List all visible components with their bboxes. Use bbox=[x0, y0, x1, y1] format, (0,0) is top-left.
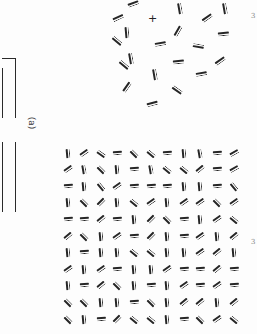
grid-element bbox=[181, 248, 187, 257]
grid-element bbox=[113, 314, 123, 324]
grid-element bbox=[113, 217, 122, 223]
grid-element bbox=[163, 150, 172, 156]
cluster-element bbox=[127, 0, 139, 8]
grid-element bbox=[213, 150, 222, 156]
grid-element bbox=[196, 298, 206, 308]
grid-element bbox=[63, 297, 73, 307]
grid-element bbox=[181, 181, 187, 190]
cluster-element bbox=[146, 100, 158, 108]
grid-element bbox=[113, 182, 123, 191]
grid-element bbox=[129, 248, 139, 258]
cluster-element bbox=[195, 71, 207, 78]
grid-element bbox=[63, 217, 72, 223]
bracket-lower-line bbox=[15, 142, 16, 212]
grid-element bbox=[130, 183, 139, 189]
grid-element bbox=[196, 165, 206, 175]
grid-element bbox=[82, 314, 88, 323]
cluster-element bbox=[152, 68, 159, 80]
grid-element bbox=[163, 165, 173, 175]
grid-element bbox=[231, 248, 237, 257]
grid-element bbox=[212, 264, 222, 274]
cluster-element bbox=[171, 84, 183, 94]
grid-element bbox=[229, 231, 239, 241]
cluster-element bbox=[154, 41, 166, 48]
grid-element bbox=[113, 150, 122, 156]
grid-element bbox=[179, 165, 189, 175]
grid-element bbox=[132, 281, 138, 290]
grid-element bbox=[80, 297, 90, 307]
grid-element bbox=[63, 183, 72, 189]
grid-element bbox=[81, 165, 87, 175]
cluster-element bbox=[177, 2, 184, 14]
grid-element bbox=[165, 314, 171, 323]
grid-element bbox=[63, 231, 73, 241]
edge-mark-bottom: 3 bbox=[251, 238, 255, 246]
grid-element bbox=[65, 281, 71, 290]
grid-element bbox=[179, 266, 188, 272]
grid-element bbox=[132, 264, 138, 273]
grid-element bbox=[146, 248, 156, 258]
grid-element bbox=[113, 231, 123, 240]
grid-element bbox=[96, 198, 106, 208]
cluster-element bbox=[222, 2, 229, 14]
grid-element bbox=[65, 248, 71, 257]
grid-element bbox=[80, 198, 90, 208]
cluster-element bbox=[122, 81, 132, 93]
grid-element bbox=[96, 281, 106, 291]
grid-element bbox=[179, 316, 188, 322]
grid-element bbox=[196, 248, 206, 257]
grid-element bbox=[179, 217, 188, 223]
bracket-lower-line bbox=[2, 142, 3, 212]
grid-element bbox=[130, 167, 139, 173]
grid-element bbox=[165, 281, 171, 290]
bracket-upper-left-line bbox=[2, 68, 3, 118]
grid-element bbox=[63, 265, 73, 274]
grid-element bbox=[198, 148, 204, 158]
grid-element bbox=[115, 248, 121, 257]
bracket-upper bbox=[2, 58, 16, 118]
grid-element bbox=[162, 265, 172, 274]
grid-element bbox=[115, 298, 121, 307]
grid-element bbox=[96, 316, 105, 322]
grid-element bbox=[229, 298, 239, 308]
grid-element bbox=[215, 298, 221, 307]
grid-element bbox=[148, 165, 154, 175]
grid-element bbox=[146, 297, 156, 307]
grid-element bbox=[146, 214, 156, 224]
grid-element bbox=[146, 198, 156, 207]
grid-element bbox=[229, 283, 238, 289]
grid-element bbox=[163, 183, 172, 189]
cluster-element bbox=[111, 35, 123, 46]
grid-element bbox=[179, 233, 188, 239]
grid-element bbox=[212, 198, 222, 208]
cluster-element bbox=[124, 26, 130, 37]
cluster-element bbox=[128, 52, 135, 64]
grid-element bbox=[113, 281, 123, 291]
grid-element bbox=[196, 314, 206, 324]
cluster-element bbox=[201, 13, 213, 23]
grid-element bbox=[63, 165, 73, 174]
grid-element bbox=[165, 298, 171, 307]
grid-element bbox=[165, 231, 171, 240]
grid-element bbox=[212, 248, 222, 258]
cluster-element bbox=[112, 13, 124, 22]
grid-element bbox=[146, 314, 156, 324]
grid-element bbox=[165, 198, 171, 207]
grid-element bbox=[115, 165, 121, 174]
grid-element bbox=[113, 266, 122, 272]
grid-element bbox=[129, 198, 139, 208]
grid-element bbox=[146, 231, 156, 241]
grid-element bbox=[181, 148, 187, 157]
grid-element bbox=[179, 198, 189, 207]
grid-element bbox=[198, 215, 204, 224]
grid-element bbox=[146, 283, 155, 289]
grid-element bbox=[96, 181, 106, 191]
grid-element bbox=[63, 314, 73, 324]
grid-element bbox=[129, 314, 139, 324]
cluster-element bbox=[172, 59, 183, 65]
grid-element bbox=[98, 298, 104, 307]
grid-element bbox=[148, 264, 154, 273]
grid-element bbox=[65, 198, 71, 207]
grid-element bbox=[229, 181, 239, 191]
panel-label: (a) bbox=[27, 117, 37, 129]
